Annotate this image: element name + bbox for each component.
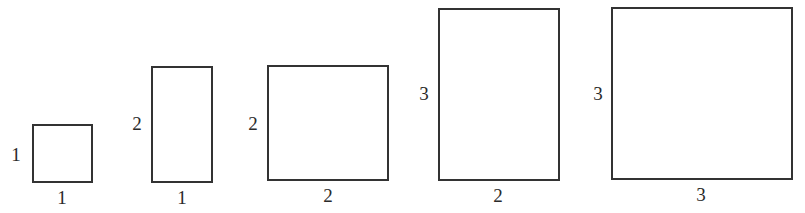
rectangle-4-width-label: 2 [488, 186, 508, 206]
rectangle-1-width-label: 1 [52, 188, 72, 208]
rectangle-2x3 [438, 8, 560, 181]
rectangle-5-width-label: 3 [691, 185, 711, 205]
rectangle-2x2 [267, 65, 389, 181]
rectangle-1-height-label: 1 [6, 145, 26, 165]
rectangle-3-height-label: 2 [243, 114, 263, 134]
rectangle-sequence-diagram: 1 1 2 1 2 2 3 2 3 3 [0, 0, 805, 213]
rectangle-2-width-label: 1 [172, 188, 192, 208]
rectangle-2-height-label: 2 [127, 114, 147, 134]
rectangle-5-height-label: 3 [588, 84, 608, 104]
rectangle-3x3 [611, 7, 793, 180]
rectangle-1x1 [32, 124, 93, 183]
rectangle-1x2 [151, 66, 213, 183]
rectangle-3-width-label: 2 [318, 186, 338, 206]
rectangle-4-height-label: 3 [414, 84, 434, 104]
